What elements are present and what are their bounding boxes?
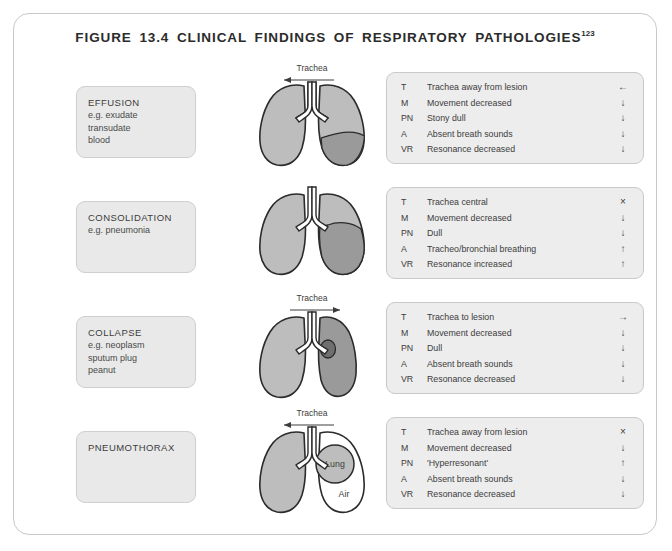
finding-row: VR Resonance increased ↑ (401, 258, 631, 274)
finding-text: Tracheo/bronchial breathing (427, 244, 615, 254)
finding-sign: × (615, 196, 631, 207)
finding-key: PN (401, 458, 427, 468)
findings-box: T Trachea away from lesion ← M Movement … (386, 72, 644, 164)
finding-text: Resonance decreased (427, 489, 615, 499)
finding-sign: ↓ (615, 143, 631, 154)
finding-text: Movement decreased (427, 443, 615, 453)
finding-row: T Trachea away from lesion × (401, 426, 631, 442)
figure-title: FIGURE 13.4 CLINICAL FINDINGS OF RESPIRA… (14, 29, 656, 45)
finding-row: PN Stony dull ↓ (401, 112, 631, 128)
finding-key: VR (401, 259, 427, 269)
finding-key: PN (401, 228, 427, 238)
pathology-example: e.g. exudate (88, 109, 195, 122)
finding-row: A Absent breath sounds ↓ (401, 128, 631, 144)
figure-frame: FIGURE 13.4 CLINICAL FINDINGS OF RESPIRA… (13, 13, 657, 535)
finding-key: A (401, 359, 427, 369)
pathology-label-box: EFFUSION e.g. exudate transudate blood (76, 86, 196, 158)
finding-sign: ↓ (615, 212, 631, 223)
finding-text: Absent breath sounds (427, 474, 615, 484)
finding-row: A Absent breath sounds ↓ (401, 358, 631, 374)
pathology-row: EFFUSION e.g. exudate transudate blood T… (14, 62, 658, 177)
finding-sign: ↑ (615, 457, 631, 468)
finding-row: PN Dull ↓ (401, 227, 631, 243)
pathology-name: CONSOLIDATION (88, 211, 195, 224)
pathology-name: PNEUMOTHORAX (88, 441, 195, 454)
finding-key: A (401, 474, 427, 484)
finding-text: Trachea to lesion (427, 312, 615, 322)
finding-row: A Tracheo/bronchial breathing ↑ (401, 243, 631, 259)
finding-sign: ↓ (615, 128, 631, 139)
finding-row: VR Resonance decreased ↓ (401, 488, 631, 504)
finding-row: M Movement decreased ↓ (401, 97, 631, 113)
findings-box: T Trachea to lesion → M Movement decreas… (386, 302, 644, 394)
finding-key: T (401, 312, 427, 322)
finding-text: 'Hyperresonant' (427, 458, 615, 468)
finding-key: VR (401, 374, 427, 384)
lung-left-shape (260, 317, 306, 397)
effusion-shading (321, 132, 364, 165)
findings-box: T Trachea central × M Movement decreased… (386, 187, 644, 279)
finding-text: Movement decreased (427, 213, 615, 223)
finding-sign: ↓ (615, 473, 631, 484)
finding-sign: ↓ (615, 488, 631, 499)
finding-row: M Movement decreased ↓ (401, 212, 631, 228)
finding-text: Movement decreased (427, 98, 615, 108)
lung-left-shape (260, 85, 306, 165)
finding-sign: ↓ (615, 327, 631, 338)
lung-diagram-consolidation (242, 177, 382, 292)
finding-sign: ↓ (615, 358, 631, 369)
finding-text: Trachea central (427, 197, 615, 207)
finding-key: T (401, 82, 427, 92)
finding-row: T Trachea away from lesion ← (401, 81, 631, 97)
finding-row: T Trachea to lesion → (401, 311, 631, 327)
finding-sign: ↓ (615, 373, 631, 384)
finding-key: VR (401, 489, 427, 499)
finding-row: M Movement decreased ↓ (401, 327, 631, 343)
finding-sign: ↓ (615, 112, 631, 123)
finding-row: T Trachea central × (401, 196, 631, 212)
finding-row: A Absent breath sounds ↓ (401, 473, 631, 489)
lung-diagram-effusion: Trachea (242, 62, 382, 177)
pathology-name: EFFUSION (88, 96, 195, 109)
finding-text: Trachea away from lesion (427, 427, 615, 437)
pathology-label-box: PNEUMOTHORAX (76, 431, 196, 503)
finding-key: M (401, 213, 427, 223)
finding-key: VR (401, 144, 427, 154)
finding-key: M (401, 443, 427, 453)
pathology-name: COLLAPSE (88, 326, 195, 339)
lung-left-shape (260, 194, 306, 274)
trachea-label: Trachea (242, 293, 382, 303)
pathology-row: COLLAPSE e.g. neoplasm sputum plug peanu… (14, 292, 658, 407)
finding-text: Dull (427, 343, 615, 353)
finding-text: Absent breath sounds (427, 359, 615, 369)
finding-row: VR Resonance decreased ↓ (401, 143, 631, 159)
finding-text: Absent breath sounds (427, 129, 615, 139)
lung-diagram-collapse: Trachea (242, 292, 382, 407)
finding-row: PN Dull ↓ (401, 342, 631, 358)
finding-row: M Movement decreased ↓ (401, 442, 631, 458)
finding-key: A (401, 244, 427, 254)
lung-diagram-pneumothorax: Trachea Lung Air (242, 407, 382, 522)
finding-sign: ↓ (615, 442, 631, 453)
finding-sign: → (615, 311, 631, 322)
finding-key: PN (401, 113, 427, 123)
finding-text: Stony dull (427, 113, 615, 123)
air-annotation: Air (339, 489, 350, 499)
pathology-example: e.g. pneumonia (88, 224, 195, 237)
finding-key: M (401, 328, 427, 338)
pathology-example: transudate (88, 122, 195, 135)
finding-sign: ← (615, 81, 631, 92)
pathology-example: peanut (88, 364, 195, 377)
pathology-row: PNEUMOTHORAX Trachea Lung Air (14, 407, 658, 522)
trachea-label: Trachea (242, 63, 382, 73)
finding-sign: ↓ (615, 342, 631, 353)
finding-key: M (401, 98, 427, 108)
figure-title-superscript: 123 (581, 29, 594, 38)
pathology-label-box: CONSOLIDATION e.g. pneumonia (76, 201, 196, 273)
pathology-row: CONSOLIDATION e.g. pneumonia T Trachea c… (14, 177, 658, 292)
finding-key: T (401, 427, 427, 437)
finding-text: Movement decreased (427, 328, 615, 338)
finding-text: Resonance increased (427, 259, 615, 269)
finding-sign: ↑ (615, 243, 631, 254)
collapsed-lung-annotation: Lung (325, 459, 345, 469)
